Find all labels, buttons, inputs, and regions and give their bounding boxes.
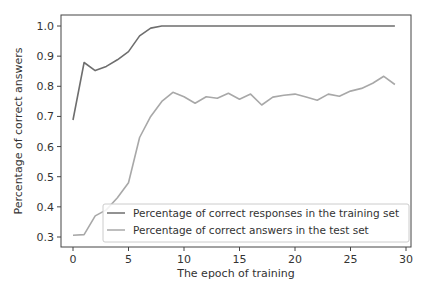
y-tick-label: 0.5 [37,171,55,184]
x-axis-label: The epoch of training [176,267,295,280]
legend: Percentage of correct responses in the t… [103,204,409,242]
training-series-line [73,26,395,120]
y-tick-label: 0.6 [37,141,55,154]
x-tick-label: 25 [344,253,358,266]
x-tick-label: 30 [399,253,413,266]
y-tick-label: 0.8 [37,80,55,93]
y-tick-label: 0.9 [37,50,55,63]
y-tick-label: 1.0 [37,20,55,33]
line-chart: 051015202530 0.30.40.50.60.70.80.91.0 Th… [0,0,426,290]
y-tick-label: 0.4 [37,201,55,214]
x-tick-label: 15 [233,253,247,266]
y-axis-label: Percentage of correct answers [12,47,25,214]
x-tick-label: 5 [125,253,132,266]
x-axis-ticks: 051015202530 [70,247,414,266]
legend-label-test: Percentage of correct answers in the tes… [133,224,369,236]
y-tick-label: 0.7 [37,110,55,123]
x-tick-label: 20 [288,253,302,266]
y-tick-label: 0.3 [37,231,55,244]
x-tick-label: 0 [70,253,77,266]
y-axis-ticks: 0.30.40.50.60.70.80.91.0 [37,20,62,244]
x-tick-label: 10 [177,253,191,266]
legend-label-training: Percentage of correct responses in the t… [133,207,399,219]
